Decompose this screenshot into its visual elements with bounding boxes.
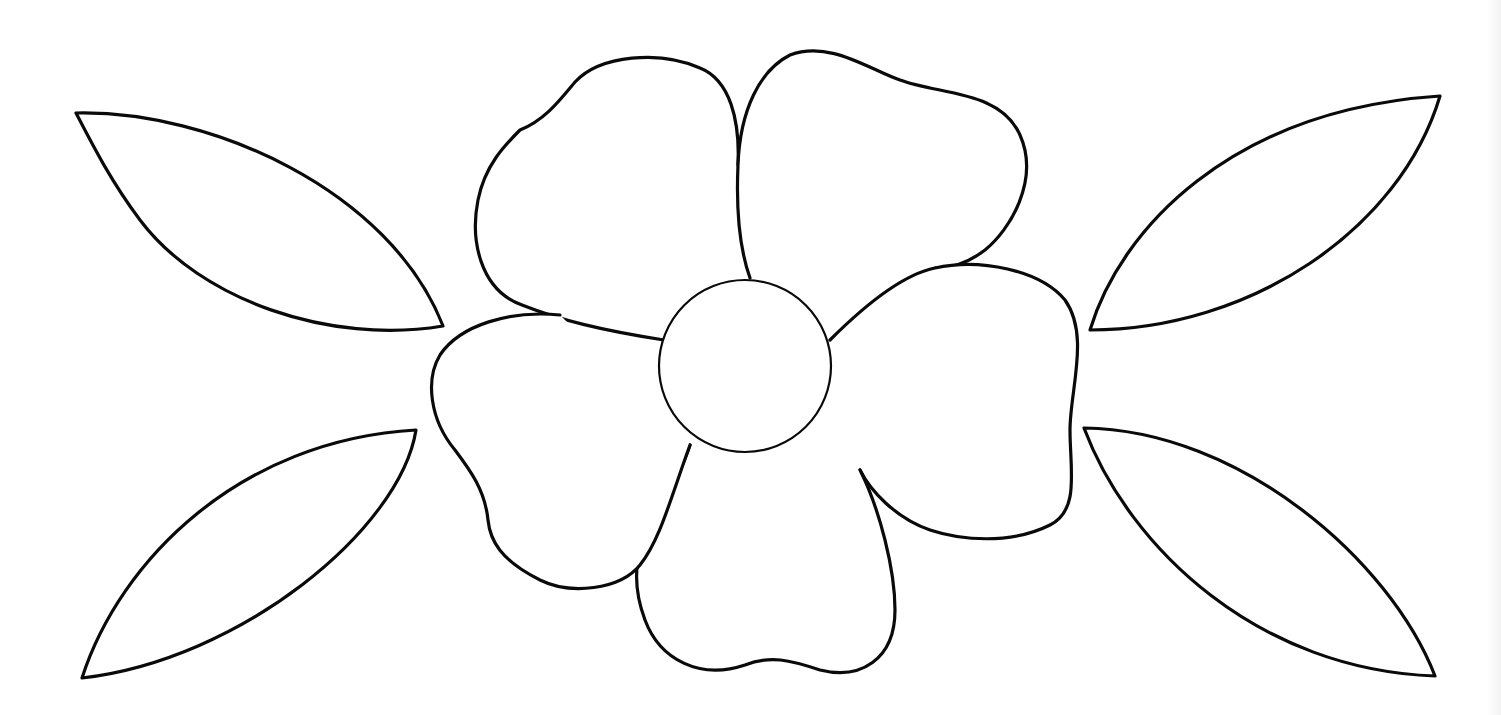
leaf-lower-left	[82, 430, 416, 678]
flower-center	[659, 280, 831, 452]
petal-left	[432, 314, 690, 588]
leaf-lower-right	[1084, 428, 1435, 676]
flower-drawing	[0, 0, 1501, 715]
petal-top-right	[738, 51, 1027, 268]
coloring-page-canvas: Black outline line drawing of a five-pet…	[0, 0, 1501, 715]
leaf-upper-right	[1090, 96, 1440, 330]
leaf-upper-left	[76, 113, 443, 330]
